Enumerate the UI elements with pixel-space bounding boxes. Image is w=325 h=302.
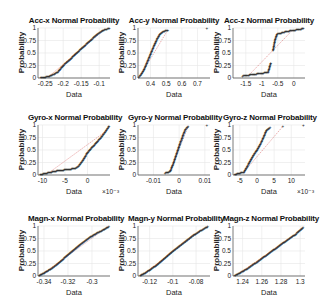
svg-text:0.75: 0.75: [218, 235, 231, 242]
svg-text:0.5: 0.5: [222, 247, 231, 254]
svg-text:0: 0: [227, 272, 231, 279]
svg-text:1.26: 1.26: [255, 278, 268, 285]
svg-text:1.28: 1.28: [275, 278, 288, 285]
plot-axes: 00.250.50.7511.241.261.281.3++++++++++++…: [0, 0, 325, 302]
svg-text:1: 1: [227, 222, 231, 229]
svg-text:1.24: 1.24: [236, 278, 249, 285]
svg-text:+: +: [302, 225, 305, 230]
svg-text:1.3: 1.3: [296, 278, 305, 285]
svg-text:0.25: 0.25: [218, 260, 231, 267]
